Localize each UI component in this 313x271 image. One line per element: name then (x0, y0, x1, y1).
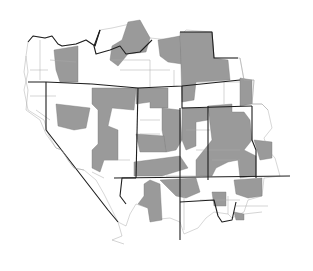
county-map (0, 0, 313, 271)
map-container (0, 0, 313, 271)
county-shaded (240, 78, 252, 106)
county-shaded (212, 192, 226, 206)
county-shaded (136, 134, 166, 152)
county-shaded (234, 212, 244, 220)
county-shaded (56, 104, 90, 130)
